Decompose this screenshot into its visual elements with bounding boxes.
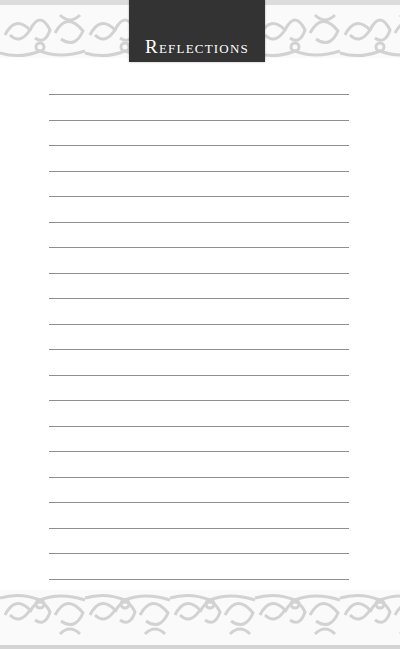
ruled-line [49, 426, 349, 427]
page-title: Reflections [129, 36, 265, 58]
title-banner: Reflections [129, 0, 265, 62]
ruled-line [49, 375, 349, 376]
ruled-line [49, 528, 349, 529]
ruled-line [49, 579, 349, 580]
ruled-line [49, 247, 349, 248]
ruled-line [49, 222, 349, 223]
ruled-line [49, 273, 349, 274]
ruled-line [49, 349, 349, 350]
ruled-line [49, 171, 349, 172]
ruled-line [49, 502, 349, 503]
ruled-line [49, 145, 349, 146]
scroll-ornament-icon [0, 590, 400, 645]
ruled-line [49, 120, 349, 121]
ruled-line [49, 400, 349, 401]
ruled-line [49, 94, 349, 95]
ruled-line [49, 553, 349, 554]
bottom-ornamental-border [0, 590, 400, 649]
ruled-line [49, 477, 349, 478]
ruled-line [49, 298, 349, 299]
ruled-line [49, 324, 349, 325]
ruled-line [49, 451, 349, 452]
ruled-line [49, 196, 349, 197]
